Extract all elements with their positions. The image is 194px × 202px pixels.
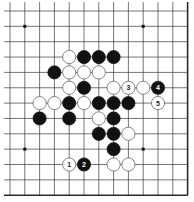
star-point-icon (23, 25, 26, 28)
white-stone[interactable] (63, 50, 76, 63)
black-stone-move-4[interactable]: 4 (151, 81, 164, 94)
stone-icon (107, 97, 120, 110)
stone-icon (107, 81, 120, 94)
star-point-icon (142, 25, 145, 28)
white-stone[interactable] (77, 66, 90, 79)
stone-icon (77, 97, 90, 110)
stone-icon (63, 112, 76, 125)
stone-icon (92, 66, 105, 79)
white-stone[interactable] (92, 66, 105, 79)
stone-icon (92, 127, 105, 140)
stone-icon (107, 50, 120, 63)
white-stone[interactable] (122, 127, 135, 140)
move-number-label: 1 (67, 161, 71, 168)
stone-icon (92, 112, 105, 125)
stone-icon (137, 81, 150, 94)
stone-icon (33, 97, 46, 110)
stone-icon (122, 127, 135, 140)
stone-icon (63, 50, 76, 63)
stone-icon (48, 66, 61, 79)
black-stone[interactable] (77, 81, 90, 94)
black-stone[interactable] (107, 50, 120, 63)
black-stone[interactable] (107, 127, 120, 140)
stone-icon (107, 143, 120, 156)
star-point-icon (142, 148, 145, 151)
move-number-label: 2 (82, 161, 86, 168)
black-stone[interactable] (48, 66, 61, 79)
white-stone-move-5[interactable]: 5 (151, 97, 164, 110)
black-stone[interactable] (92, 127, 105, 140)
white-stone-move-3[interactable]: 3 (122, 81, 135, 94)
white-stone[interactable] (33, 97, 46, 110)
move-number-label: 3 (126, 84, 130, 91)
stone-icon (77, 66, 90, 79)
stone-icon (33, 112, 46, 125)
stone-icon (107, 112, 120, 125)
white-stone[interactable] (122, 158, 135, 171)
stone-icon (107, 158, 120, 171)
star-point-icon (23, 148, 26, 151)
black-stone[interactable] (107, 97, 120, 110)
go-board[interactable]: 34512 (0, 0, 194, 202)
stone-icon (48, 97, 61, 110)
black-stone[interactable] (92, 50, 105, 63)
white-stone[interactable] (77, 97, 90, 110)
black-stone[interactable] (92, 97, 105, 110)
stone-icon (92, 50, 105, 63)
black-stone-move-2[interactable]: 2 (77, 158, 90, 171)
white-stone[interactable] (107, 158, 120, 171)
stone-icon (92, 97, 105, 110)
black-stone[interactable] (107, 112, 120, 125)
black-stone[interactable] (63, 112, 76, 125)
black-stone[interactable] (33, 112, 46, 125)
black-stone[interactable] (122, 97, 135, 110)
move-number-label: 5 (156, 100, 160, 107)
stone-icon (63, 66, 76, 79)
white-stone[interactable] (63, 66, 76, 79)
white-stone[interactable] (92, 112, 105, 125)
white-stone-move-1[interactable]: 1 (63, 158, 76, 171)
stone-icon (63, 97, 76, 110)
black-stone[interactable] (77, 50, 90, 63)
black-stone[interactable] (63, 97, 76, 110)
move-number-label: 4 (156, 84, 160, 91)
white-stone[interactable] (63, 81, 76, 94)
white-stone[interactable] (137, 81, 150, 94)
stone-icon (107, 127, 120, 140)
stone-icon (122, 158, 135, 171)
stone-icon (77, 81, 90, 94)
black-stone[interactable] (107, 143, 120, 156)
stone-icon (63, 81, 76, 94)
stone-icon (77, 50, 90, 63)
white-stone[interactable] (107, 81, 120, 94)
stone-icon (122, 97, 135, 110)
white-stone[interactable] (48, 97, 61, 110)
